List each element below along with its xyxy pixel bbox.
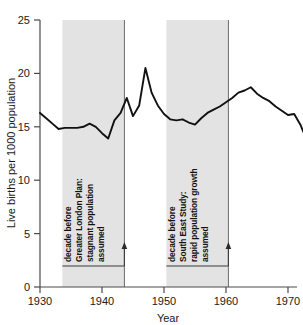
y-axis-title: Live births per 1000 population: [5, 78, 17, 228]
y-tick-label-15: 15: [18, 121, 30, 133]
y-tick-label-10: 10: [18, 174, 30, 186]
y-tick-label-25: 25: [18, 14, 30, 26]
band-2-line-1: decade before: [167, 206, 177, 262]
band-2-line-2: South East Study:: [178, 192, 188, 262]
x-tick-label-1960: 1960: [214, 295, 238, 307]
band-1-line-1: decade before: [63, 206, 73, 262]
x-tick-label-1950: 1950: [152, 295, 176, 307]
band-1-line-3: stagnant population: [85, 184, 95, 262]
chart-background: [0, 0, 303, 325]
band-1-line-2: Greater London Plan:: [74, 178, 84, 262]
band-2-line-4: assumed: [200, 226, 210, 262]
band-1-line-4: assumed: [96, 226, 106, 262]
x-axis-title: Year: [157, 312, 180, 324]
y-tick-label-20: 20: [18, 67, 30, 79]
chart-svg: 0 5 10 15 20 25 1930 1940 1950 1960 1970…: [0, 0, 303, 325]
band-2-line-3: rapid population growth: [189, 168, 199, 262]
x-tick-label-1940: 1940: [90, 295, 114, 307]
x-tick-label-1970: 1970: [276, 295, 300, 307]
birth-rate-line-chart: 0 5 10 15 20 25 1930 1940 1950 1960 1970…: [0, 0, 303, 325]
y-tick-label-0: 0: [24, 281, 30, 293]
x-tick-label-1930: 1930: [28, 295, 52, 307]
y-tick-label-5: 5: [24, 228, 30, 240]
